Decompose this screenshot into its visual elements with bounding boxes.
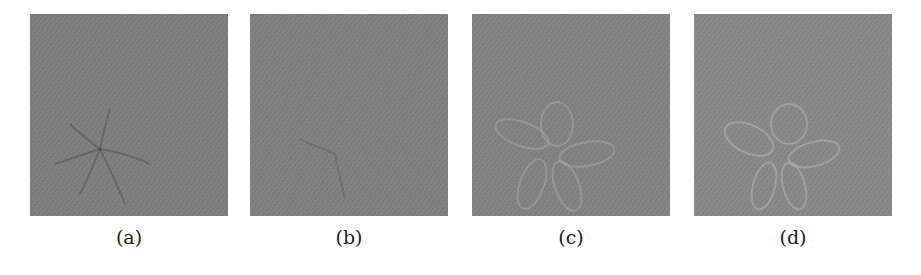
panel-d-image bbox=[694, 14, 892, 216]
panel-b-image bbox=[250, 14, 448, 216]
flower-pattern-d bbox=[694, 14, 892, 216]
panel-c-image bbox=[472, 14, 670, 216]
noise-image-b bbox=[250, 14, 448, 216]
flower-pattern-b bbox=[250, 14, 448, 216]
panel-a-image bbox=[30, 14, 228, 216]
panel-b-caption: (b) bbox=[250, 226, 448, 248]
panel-c-caption: (c) bbox=[472, 226, 670, 248]
flower-pattern-c bbox=[472, 14, 670, 216]
panel-a-caption: (a) bbox=[30, 226, 228, 248]
noise-image-c bbox=[472, 14, 670, 216]
flower-pattern-a bbox=[30, 14, 228, 216]
noise-image-d bbox=[694, 14, 892, 216]
panel-d-caption: (d) bbox=[694, 226, 892, 248]
noise-image-a bbox=[30, 14, 228, 216]
